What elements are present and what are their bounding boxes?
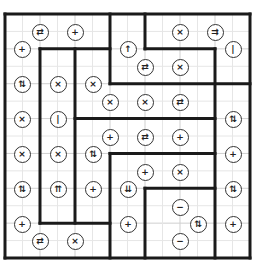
cross-icon: ×: [18, 150, 26, 159]
clue-circle[interactable]: −: [172, 233, 189, 250]
left-right-arrows-icon: ⇄: [141, 133, 149, 142]
left-right-arrows-icon: ⇄: [176, 98, 184, 107]
clue-circle[interactable]: ×: [102, 94, 119, 111]
clue-circle[interactable]: ⇅: [225, 111, 242, 128]
clue-circle[interactable]: ×: [172, 59, 189, 76]
clue-circle[interactable]: +: [225, 146, 242, 163]
clue-circle[interactable]: ⇅: [225, 181, 242, 198]
up-down-arrows-icon: ⇅: [18, 80, 26, 89]
up-down-arrows-icon: ⇅: [229, 115, 237, 124]
left-right-arrows-icon: ⇄: [36, 237, 44, 246]
clue-circle[interactable]: ⇈: [50, 181, 67, 198]
clue-circle[interactable]: +: [85, 181, 102, 198]
minus-icon: −: [176, 237, 184, 246]
up-down-arrows-icon: ⇅: [89, 150, 97, 159]
clue-circle[interactable]: +: [14, 216, 31, 233]
up-arrow-icon: ↑: [124, 45, 132, 54]
up-down-arrows-icon: ⇅: [18, 185, 26, 194]
plus-icon: +: [89, 185, 97, 194]
clue-circle[interactable]: ⇄: [32, 233, 49, 250]
clue-circle[interactable]: ⇄: [137, 129, 154, 146]
double-right-arrow-icon: ⇉: [211, 28, 219, 37]
cross-icon: ×: [176, 63, 184, 72]
clue-circle[interactable]: ×: [50, 146, 67, 163]
left-right-arrows-icon: ⇄: [36, 28, 44, 37]
clue-circle[interactable]: +: [67, 24, 84, 41]
clue-circle[interactable]: +: [172, 129, 189, 146]
plus-icon: +: [176, 133, 184, 142]
up-down-arrows-icon: ⇅: [229, 185, 237, 194]
clue-circle[interactable]: ⇄: [172, 94, 189, 111]
plus-icon: +: [141, 168, 149, 177]
clue-circle[interactable]: |: [50, 111, 67, 128]
cross-icon: ×: [71, 237, 79, 246]
clue-circle[interactable]: ⇄: [137, 59, 154, 76]
bar-icon: |: [56, 115, 59, 124]
cross-icon: ×: [176, 168, 184, 177]
cross-icon: ×: [54, 80, 62, 89]
clue-circle[interactable]: ×: [137, 94, 154, 111]
plus-icon: +: [106, 133, 114, 142]
puzzle-board: ⇄+×⇉+↑|⇄×⇅××××⇄×|⇅+⇄+××⇅++×⇅⇈+⇊⇅−++⇅+⇄×−: [0, 0, 255, 267]
clue-circle[interactable]: +: [225, 216, 242, 233]
minus-icon: −: [176, 203, 184, 212]
clue-circle[interactable]: ×: [172, 24, 189, 41]
cross-icon: ×: [176, 28, 184, 37]
plus-icon: +: [124, 220, 132, 229]
clue-circle[interactable]: ⇅: [14, 76, 31, 93]
plus-icon: +: [18, 220, 26, 229]
plus-icon: +: [229, 150, 237, 159]
clue-circle[interactable]: −: [172, 199, 189, 216]
clue-circle[interactable]: ↑: [120, 41, 137, 58]
cross-icon: ×: [54, 150, 62, 159]
clue-circle[interactable]: ⇅: [85, 146, 102, 163]
clue-circle[interactable]: ×: [67, 233, 84, 250]
clue-circle[interactable]: ×: [172, 164, 189, 181]
plus-icon: +: [229, 220, 237, 229]
double-up-arrow-icon: ⇈: [54, 185, 62, 194]
cross-icon: ×: [141, 98, 149, 107]
clue-circle[interactable]: ×: [85, 76, 102, 93]
double-down-arrow-icon: ⇊: [124, 185, 132, 194]
clue-circle[interactable]: ⇅: [14, 181, 31, 198]
clue-circle[interactable]: ⇉: [207, 24, 224, 41]
clue-circle[interactable]: ⇅: [190, 216, 207, 233]
clue-circle[interactable]: +: [120, 216, 137, 233]
bar-icon: |: [231, 45, 234, 54]
cross-icon: ×: [106, 98, 114, 107]
clue-circle[interactable]: +: [102, 129, 119, 146]
clue-circle[interactable]: ⇄: [32, 24, 49, 41]
cross-icon: ×: [18, 115, 26, 124]
plus-icon: +: [18, 45, 26, 54]
clue-circle[interactable]: ×: [14, 146, 31, 163]
left-right-arrows-icon: ⇄: [141, 63, 149, 72]
clue-circle[interactable]: |: [225, 41, 242, 58]
clue-circle[interactable]: ×: [14, 111, 31, 128]
plus-icon: +: [71, 28, 79, 37]
clue-circle[interactable]: +: [14, 41, 31, 58]
clue-circle[interactable]: +: [137, 164, 154, 181]
clue-circle[interactable]: ⇊: [120, 181, 137, 198]
up-down-arrows-icon: ⇅: [194, 220, 202, 229]
clue-circle[interactable]: ×: [50, 76, 67, 93]
cross-icon: ×: [89, 80, 97, 89]
